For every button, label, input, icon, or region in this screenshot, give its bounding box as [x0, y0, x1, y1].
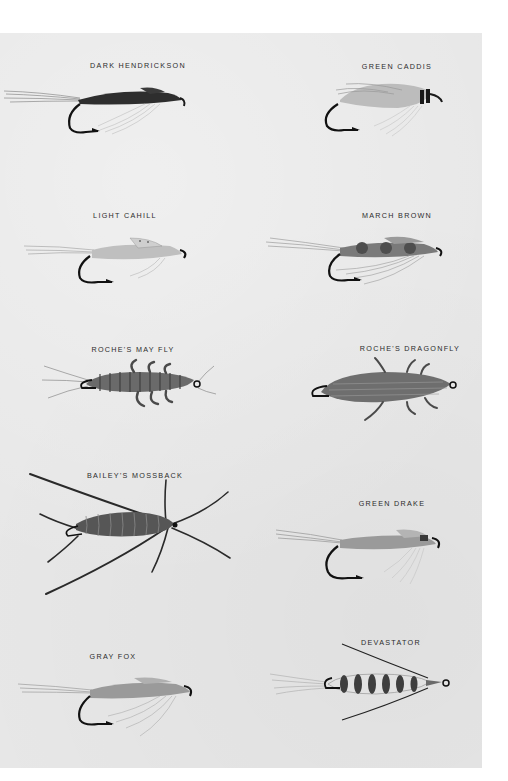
label-green-drake: GREEN DRAKE — [359, 499, 426, 508]
fly-baileys-mossback-illustration — [26, 472, 236, 602]
label-march-brown: MARCH BROWN — [362, 211, 432, 220]
fly-green-caddis-illustration — [318, 78, 468, 138]
fly-gray-fox-illustration — [16, 674, 196, 744]
fly-dark-hendrickson-illustration — [0, 80, 200, 140]
label-green-caddis: GREEN CADDIS — [362, 62, 432, 71]
label-gray-fox: GRAY FOX — [90, 652, 137, 661]
fly-light-cahill-illustration — [20, 232, 195, 292]
fly-roches-dragonfly-illustration — [303, 356, 463, 426]
label-roches-dragonfly: ROCHE'S DRAGONFLY — [360, 344, 460, 353]
fly-devastator-illustration — [266, 644, 466, 734]
fly-march-brown-illustration — [264, 230, 454, 290]
label-light-cahill: LIGHT CAHILL — [93, 211, 157, 220]
label-roches-may-fly: ROCHE'S MAY FLY — [91, 345, 174, 354]
fly-green-drake-illustration — [272, 526, 452, 596]
fly-roches-may-fly-illustration — [38, 358, 218, 418]
label-dark-hendrickson: DARK HENDRICKSON — [90, 61, 186, 70]
